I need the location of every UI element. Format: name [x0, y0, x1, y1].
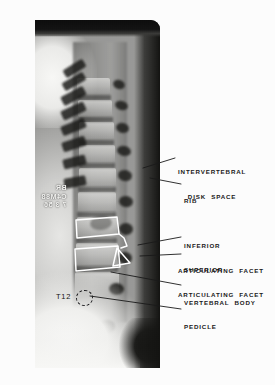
traced-inferior-facet: [119, 234, 127, 248]
traced-vertebral-body-lower: [75, 246, 120, 271]
pedicle-outline-ellipse: [76, 290, 93, 306]
annotated-radiograph-figure: BR C4M88 7 3 56 T12 INTERVERTEBRAL DISK …: [0, 0, 275, 385]
t12-level-marker: T12: [56, 292, 71, 301]
label-line: RIB: [184, 197, 197, 205]
label-line: SUPERIOR: [184, 266, 264, 274]
film-id-stamp: BR C4M88 7 3 56: [41, 184, 67, 210]
label-line: PEDICLE: [184, 323, 217, 331]
label-line: INTERVERTEBRAL: [178, 168, 246, 176]
label-rib: RIB: [184, 181, 197, 222]
label-pedicle: PEDICLE: [184, 307, 217, 348]
traced-superior-facet: [113, 248, 130, 266]
traced-vertebral-body-upper: [76, 217, 119, 238]
xray-film: BR C4M88 7 3 56: [35, 20, 160, 368]
